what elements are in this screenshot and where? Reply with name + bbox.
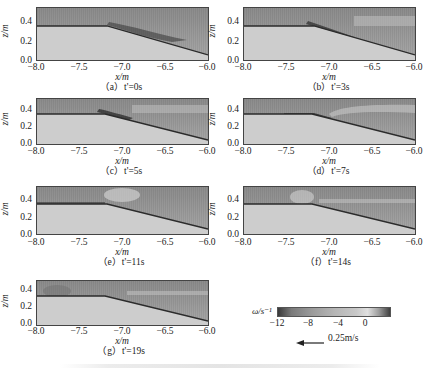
x-tick: −7.5 — [64, 237, 94, 247]
panel-caption: （c）t'=5s — [71, 166, 171, 177]
x-tick: −7.0 — [314, 62, 344, 72]
y-tick: 0.2 — [8, 212, 32, 222]
x-tick: −6.5 — [150, 326, 180, 336]
x-tick: −7.0 — [107, 146, 137, 156]
y-tick: 0.2 — [8, 121, 32, 131]
vorticity-field-f — [244, 187, 415, 234]
x-tick: −7.5 — [271, 237, 301, 247]
colorbar — [277, 307, 391, 317]
y-axis-label: z/m — [207, 202, 217, 215]
y-axis-label: z/m — [0, 202, 10, 215]
reference-vector — [296, 334, 326, 344]
x-tick: −6.5 — [150, 62, 180, 72]
y-tick: 0.4 — [8, 104, 32, 114]
panel-caption: （d）t'=7s — [278, 166, 378, 177]
vorticity-plot — [243, 186, 416, 235]
y-tick: 0.4 — [8, 284, 32, 294]
colorbar-tick: −12 — [265, 318, 289, 328]
x-axis-label: x/m — [102, 72, 142, 82]
vorticity-plot — [36, 186, 209, 235]
x-tick: −8.0 — [228, 62, 258, 72]
x-tick: −6.0 — [399, 62, 429, 72]
vorticity-field-a — [37, 8, 208, 60]
panel-a: 0.4 0.2 0.0 z/m −8.0 −7.5 −7.0 −6.5 −6.0… — [0, 0, 215, 92]
vorticity-field-b — [244, 8, 415, 60]
y-axis-label: z/m — [0, 294, 10, 307]
x-tick: −8.0 — [21, 237, 51, 247]
y-axis-label: z/m — [0, 112, 10, 125]
y-axis-label: z/m — [0, 24, 10, 37]
colorbar-tick: −8 — [296, 318, 320, 328]
y-tick: 0.4 — [215, 16, 239, 26]
y-tick: 0.4 — [215, 104, 239, 114]
x-axis-label: x/m — [102, 156, 142, 166]
y-tick: 0.4 — [8, 16, 32, 26]
y-tick: 0.2 — [215, 121, 239, 131]
y-axis-label: z/m — [207, 112, 217, 125]
x-tick: −6.5 — [150, 237, 180, 247]
x-tick: −7.0 — [107, 326, 137, 336]
x-tick: −7.0 — [314, 146, 344, 156]
vorticity-plot — [36, 98, 209, 145]
x-tick: −7.0 — [314, 237, 344, 247]
x-tick: −7.0 — [107, 237, 137, 247]
y-tick: 0.2 — [215, 212, 239, 222]
x-tick: −6.5 — [357, 237, 387, 247]
y-tick: 0.4 — [8, 194, 32, 204]
vorticity-field-e — [37, 187, 208, 234]
vorticity-field-d — [244, 99, 415, 144]
panel-caption: （e）t'=11s — [71, 257, 171, 268]
x-tick: −7.5 — [271, 146, 301, 156]
reference-vector-label: 0.25m/s — [328, 333, 358, 343]
vorticity-plot — [243, 98, 416, 145]
x-tick: −6.0 — [192, 326, 222, 336]
colorbar-tick: −4 — [326, 318, 350, 328]
x-tick: −8.0 — [228, 146, 258, 156]
x-axis-label: x/m — [309, 156, 349, 166]
x-tick: −7.5 — [64, 326, 94, 336]
x-tick: −6.5 — [357, 62, 387, 72]
x-tick: −8.0 — [21, 146, 51, 156]
panel-g: 0.4 0.2 0.0 z/m −8.0 −7.5 −7.0 −6.5 −6.0… — [0, 272, 215, 364]
panel-d: 0.4 0.2 0.0 z/m −8.0 −7.5 −7.0 −6.5 −6.0… — [207, 92, 433, 184]
x-axis-label: x/m — [309, 72, 349, 82]
x-axis-label: x/m — [102, 247, 142, 257]
y-tick: 0.2 — [8, 301, 32, 311]
left-arrow-icon — [296, 338, 326, 348]
vorticity-field-c — [37, 99, 208, 144]
vorticity-plot — [243, 7, 416, 61]
panel-caption: （f）t'=14s — [278, 257, 378, 268]
vorticity-field-g — [37, 281, 208, 325]
x-axis-label: x/m — [102, 336, 142, 346]
vorticity-plot — [36, 280, 209, 326]
vorticity-plot — [36, 7, 209, 61]
panel-c: 0.4 0.2 0.0 z/m −8.0 −7.5 −7.0 −6.5 −6.0… — [0, 92, 215, 184]
panel-b: 0.4 0.2 0.0 z/m −8.0 −7.5 −7.0 −6.5 −6.0… — [207, 0, 433, 92]
x-tick: −6.0 — [399, 237, 429, 247]
x-tick: −7.5 — [64, 146, 94, 156]
x-axis-label: x/m — [309, 247, 349, 257]
y-tick: 0.2 — [215, 36, 239, 46]
x-tick: −7.5 — [271, 62, 301, 72]
x-tick: −8.0 — [21, 62, 51, 72]
colorbar-label: ω/s⁻¹ — [252, 306, 272, 316]
x-tick: −6.5 — [150, 146, 180, 156]
y-axis-label: z/m — [207, 24, 217, 37]
panel-caption: （g）t'=19s — [71, 346, 171, 357]
x-tick: −7.5 — [64, 62, 94, 72]
panel-f: 0.4 0.2 0.0 z/m −8.0 −7.5 −7.0 −6.5 −6.0… — [207, 180, 433, 272]
colorbar-tick: 0 — [353, 318, 377, 328]
x-tick: −6.0 — [399, 146, 429, 156]
y-tick: 0.2 — [8, 36, 32, 46]
x-tick: −8.0 — [21, 326, 51, 336]
x-tick: −6.5 — [357, 146, 387, 156]
x-tick: −7.0 — [107, 62, 137, 72]
x-tick: −8.0 — [228, 237, 258, 247]
figure-caption-faint — [60, 364, 380, 368]
panel-e: 0.4 0.2 0.0 z/m −8.0 −7.5 −7.0 −6.5 −6.0… — [0, 180, 215, 272]
y-tick: 0.4 — [215, 194, 239, 204]
